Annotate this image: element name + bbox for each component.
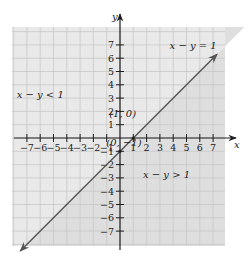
inequality-graph: xy −7−6−5−4−3−2−11234567−7−6−5−4−3−2−112… (0, 0, 252, 258)
region-greater-label: x − y > 1 (143, 169, 190, 180)
x-axis-label: x (234, 139, 240, 150)
point-b-label: (0, −1) (106, 137, 141, 148)
y-tick-label: 3 (108, 93, 114, 104)
x-tick-label: −2 (86, 142, 100, 153)
y-tick-label: −5 (100, 199, 114, 210)
y-tick-label: −3 (100, 172, 114, 183)
x-tick-label: −7 (20, 142, 34, 153)
y-tick-label: 1 (108, 119, 114, 130)
line-label: x − y = 1 (170, 40, 217, 51)
point-a-label: (1, 0) (109, 108, 136, 119)
y-tick-label: −4 (100, 186, 114, 197)
y-tick-label: 5 (108, 66, 114, 77)
intercept-point (118, 150, 121, 153)
y-tick-label: 6 (108, 53, 114, 64)
x-tick-label: 5 (183, 142, 189, 153)
y-tick-label: −7 (100, 226, 114, 237)
x-tick-label: 2 (144, 142, 150, 153)
x-tick-label: −6 (33, 142, 47, 153)
y-tick-label: −6 (100, 212, 114, 223)
y-tick-label: 7 (108, 39, 114, 50)
x-tick-label: −4 (60, 142, 74, 153)
x-tick-label: −3 (73, 142, 87, 153)
y-tick-label: 4 (108, 79, 114, 90)
region-less-label: x − y < 1 (17, 89, 64, 100)
x-tick-label: −5 (46, 142, 60, 153)
x-tick-label: 7 (210, 142, 216, 153)
x-tick-label: 4 (170, 142, 176, 153)
x-tick-label: 6 (197, 142, 203, 153)
y-axis-label: y (111, 11, 118, 22)
x-tick-label: 3 (157, 142, 163, 153)
